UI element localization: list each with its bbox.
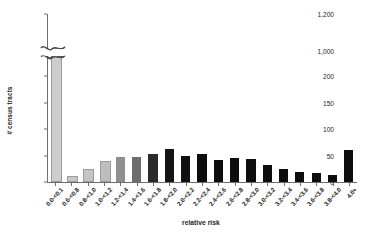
y-tick-label: 100 (308, 126, 334, 133)
x-tick-label: 3.8-<4.0 (322, 186, 342, 207)
bar (246, 159, 255, 182)
bar (181, 156, 190, 183)
bar (148, 154, 157, 182)
x-tick-label: 3.2-<3.4 (273, 186, 293, 207)
y-tick-label: 1,000 (308, 47, 334, 54)
y-tick-mark (44, 129, 47, 130)
bar (279, 169, 288, 182)
bar (344, 150, 353, 182)
y-tick-label: 50 (308, 152, 334, 159)
bar (295, 172, 304, 182)
x-axis-title: relative risk (182, 219, 220, 226)
x-tick-label: 1.2-<1.4 (110, 186, 130, 207)
y-tick-label: 150 (308, 99, 334, 106)
axis-break-icon (40, 42, 66, 62)
y-axis-title-text: # census tracts (6, 86, 13, 134)
x-tick-label: 0.6-<0.8 (61, 186, 81, 207)
bar (214, 160, 223, 182)
y-tick-label: 200 (308, 73, 334, 80)
bar (116, 157, 125, 182)
x-tick-label: 2.0-<2.2 (175, 186, 195, 207)
relative-risk-histogram: # census tracts 0501001502001,0001,200 0… (0, 0, 384, 241)
bar (132, 157, 141, 182)
y-tick-label: 1,200 (308, 11, 334, 18)
bar (263, 165, 272, 182)
bar (67, 176, 78, 182)
bar (51, 51, 62, 182)
bar (100, 161, 111, 182)
x-tick-label: 4.0+ (345, 186, 358, 199)
y-tick-mark (44, 155, 47, 156)
bar (83, 169, 94, 182)
bar (230, 158, 239, 182)
bar (197, 154, 206, 182)
y-tick-mark (44, 102, 47, 103)
y-axis-title: # census tracts (2, 60, 16, 160)
y-tick-mark (44, 14, 47, 15)
bar (165, 149, 174, 182)
y-tick-mark (44, 76, 47, 77)
x-tick-label: 2.6-<2.8 (224, 186, 244, 207)
